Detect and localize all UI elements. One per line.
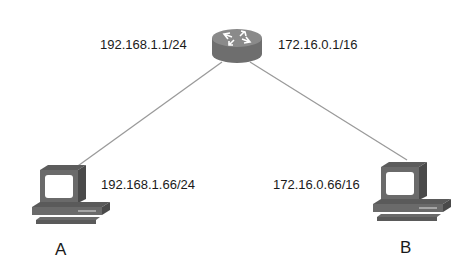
host-b-address-label: 172.16.0.66/16 <box>273 178 360 191</box>
router-left-interface-label: 192.168.1.1/24 <box>100 38 187 51</box>
link-router-a <box>75 62 222 168</box>
host-b-label: B <box>400 239 411 256</box>
computer-icon-b <box>373 162 451 221</box>
computer-icon-a <box>32 165 110 224</box>
router-right-interface-label: 172.16.0.1/16 <box>278 38 358 51</box>
host-a-label: A <box>55 241 66 258</box>
link-router-b <box>250 62 407 160</box>
router-icon <box>212 29 262 63</box>
host-a-address-label: 192.168.1.66/24 <box>101 178 195 191</box>
